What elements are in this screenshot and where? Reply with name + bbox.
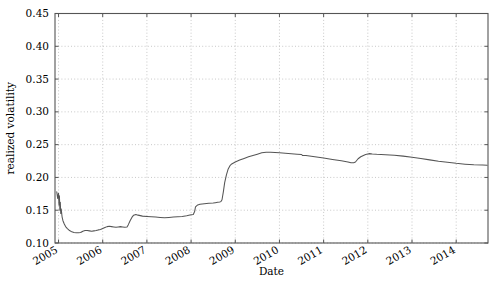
realized-volatility-line-chart: 2005200620072008200920102011201220132014… — [0, 0, 501, 290]
plot-area-background — [55, 14, 488, 244]
y-tick-label: 0.25 — [26, 138, 49, 150]
y-tick-label: 0.40 — [26, 40, 49, 52]
y-tick-label: 0.10 — [26, 237, 49, 249]
y-tick-label: 0.30 — [26, 105, 49, 117]
y-axis-title: realized volatility — [4, 82, 16, 174]
chart-figure: 2005200620072008200920102011201220132014… — [0, 0, 501, 290]
x-axis-title: Date — [259, 265, 284, 277]
y-tick-label: 0.35 — [26, 73, 49, 85]
y-tick-label: 0.45 — [26, 7, 49, 19]
y-tick-label: 0.15 — [26, 204, 49, 216]
y-tick-label: 0.20 — [26, 171, 49, 183]
